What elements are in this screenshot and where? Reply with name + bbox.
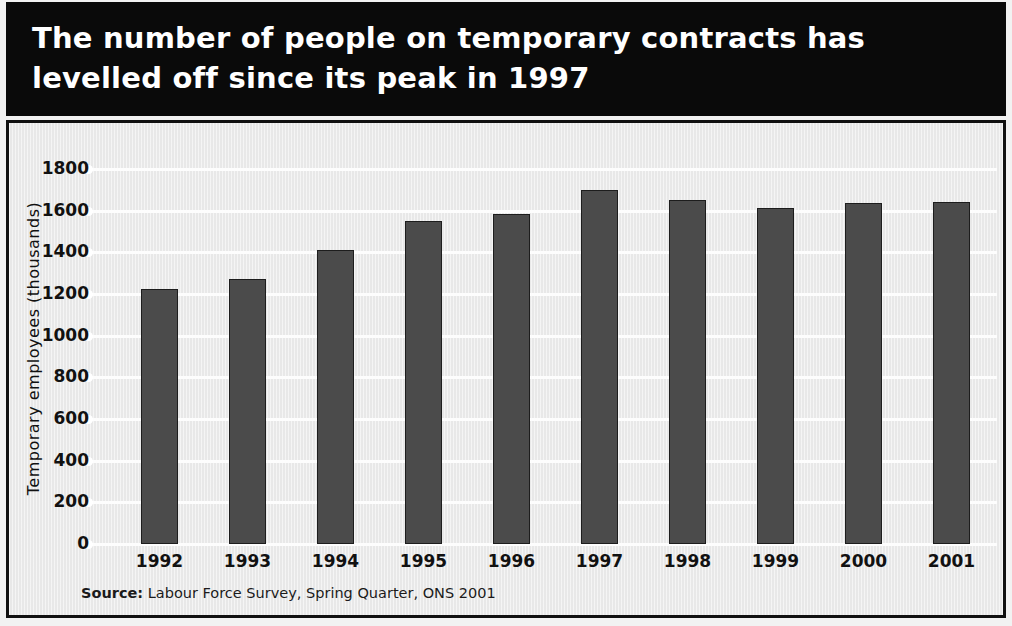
gridline — [89, 168, 997, 171]
bar-1998 — [669, 200, 706, 544]
y-tick-label-text: 1600 — [23, 202, 89, 219]
y-tick-label: 1000 — [9, 327, 89, 344]
x-tick-label-1994: 1994 — [293, 551, 379, 571]
y-tick-label: 400 — [9, 452, 89, 469]
bar-1993 — [229, 279, 266, 544]
source-label: Source — [81, 585, 137, 601]
x-tick-label-2001: 2001 — [909, 551, 995, 571]
bar-2001 — [933, 202, 970, 544]
y-tick-label: 1400 — [9, 243, 89, 260]
title-line-2: levelled off since its peak in 1997 — [32, 58, 980, 98]
y-tick-label-text: 400 — [23, 452, 89, 469]
x-tick-label-1995: 1995 — [381, 551, 467, 571]
y-tick-label-text: 200 — [23, 493, 89, 510]
y-tick-label: 1800 — [9, 160, 89, 177]
y-tick-label: 0 — [9, 535, 89, 552]
x-tick-label-1993: 1993 — [205, 551, 291, 571]
title-line-1: The number of people on temporary contra… — [32, 18, 980, 58]
y-tick-label-text: 600 — [23, 410, 89, 427]
x-tick-label-1992: 1992 — [117, 551, 203, 571]
x-tick-label-1996: 1996 — [469, 551, 555, 571]
chart-figure: The number of people on temporary contra… — [0, 0, 1012, 626]
bar-1997 — [581, 190, 618, 544]
y-tick-label-text: 1400 — [23, 243, 89, 260]
x-tick-label-2000: 2000 — [821, 551, 907, 571]
bar-2000 — [845, 203, 882, 544]
bar-1994 — [317, 250, 354, 544]
x-tick-label-1999: 1999 — [733, 551, 819, 571]
title-banner: The number of people on temporary contra… — [6, 2, 1006, 116]
y-tick-label-text: 1200 — [23, 285, 89, 302]
y-tick-label: 600 — [9, 410, 89, 427]
y-tick-label-text: 1800 — [23, 160, 89, 177]
y-tick-label-text: 1000 — [23, 327, 89, 344]
y-tick-label-text: 800 — [23, 368, 89, 385]
y-tick-label-text: 0 — [23, 535, 89, 552]
source-note: Source: Labour Force Survey, Spring Quar… — [81, 585, 496, 601]
bar-1995 — [405, 221, 442, 544]
x-tick-label-1997: 1997 — [557, 551, 643, 571]
bar-1999 — [757, 208, 794, 544]
y-tick-label: 800 — [9, 368, 89, 385]
y-tick-label: 1600 — [9, 202, 89, 219]
source-text-value: Labour Force Survey, Spring Quarter, ONS… — [148, 585, 496, 601]
plot-area: Temporary employees (thousands) 02004006… — [9, 123, 1003, 615]
bar-1996 — [493, 214, 530, 544]
bar-1992 — [141, 289, 178, 544]
x-tick-label-1998: 1998 — [645, 551, 731, 571]
y-tick-label: 200 — [9, 493, 89, 510]
chart-panel: Temporary employees (thousands) 02004006… — [6, 120, 1006, 618]
chart-plot-background: Temporary employees (thousands) 02004006… — [9, 123, 1003, 615]
y-tick-label: 1200 — [9, 285, 89, 302]
